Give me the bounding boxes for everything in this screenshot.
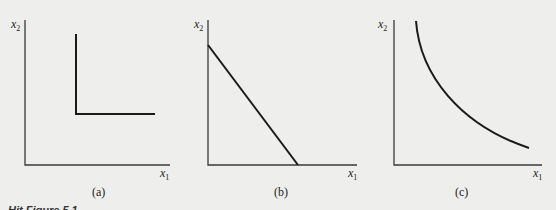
panel-c-caption: (c) [455, 185, 468, 199]
figure-caption: Hit Figure 5.1 [8, 204, 78, 210]
panel-a-y-label: x2 [10, 17, 20, 33]
panel-c: x2 x1 (c) [377, 17, 542, 199]
panel-b-x-label: x1 [347, 166, 357, 182]
panel-a-l-curve [76, 34, 155, 114]
panel-b-y-label: x2 [193, 17, 203, 33]
panel-b-linear-curve [208, 45, 298, 165]
panel-a-axes [25, 20, 170, 165]
panel-c-convex-curve [416, 21, 529, 148]
panel-c-y-label: x2 [377, 17, 387, 33]
panel-b: x2 x1 (b) [193, 17, 357, 199]
panel-c-axes [394, 20, 542, 165]
panel-b-caption: (b) [274, 185, 288, 199]
panel-a-x-label: x1 [159, 166, 169, 182]
panel-a-caption: (a) [92, 185, 105, 199]
panel-c-x-label: x1 [532, 166, 542, 182]
panel-a: x2 x1 (a) [10, 17, 170, 199]
figure-canvas: x2 x1 (a) x2 x1 (b) x2 x1 (c) Hit Figure… [0, 0, 556, 210]
